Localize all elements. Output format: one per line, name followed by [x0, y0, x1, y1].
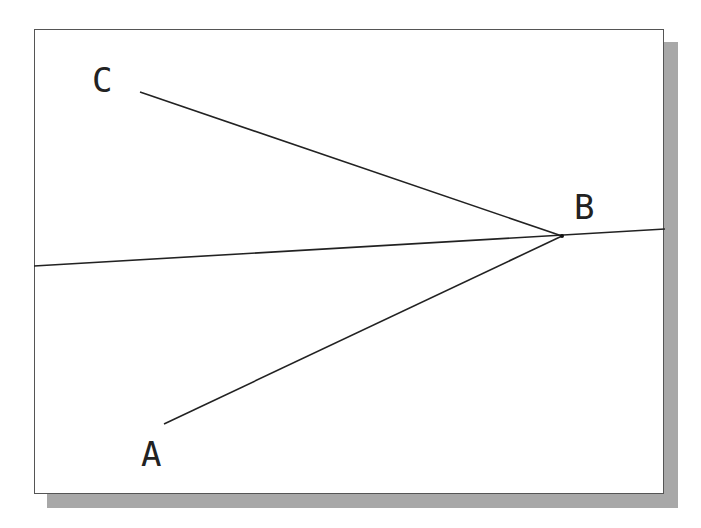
label-b: B: [574, 190, 594, 224]
label-a: A: [141, 437, 161, 471]
point-b-marker: [560, 234, 564, 238]
segment-ab: [164, 236, 562, 424]
line-through-b: [34, 229, 665, 266]
segment-cb: [140, 92, 562, 236]
label-c: C: [92, 63, 112, 97]
